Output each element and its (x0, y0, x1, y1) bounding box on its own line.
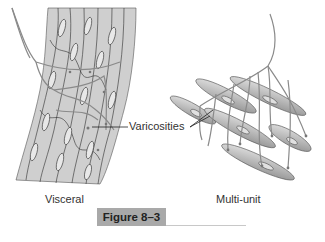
multi-unit-label: Multi-unit (216, 193, 261, 205)
caption-rule (166, 225, 246, 226)
varicosities-label: Varicosities (129, 120, 184, 132)
figure-caption: Figure 8–3 (97, 208, 166, 226)
visceral-label: Visceral (45, 193, 84, 205)
visceral-tissue (16, 8, 136, 184)
